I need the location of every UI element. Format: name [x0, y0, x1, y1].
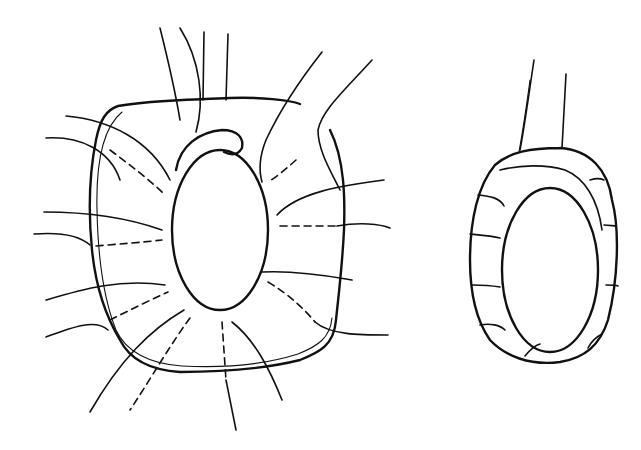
illustration-canvas [0, 0, 641, 450]
sheath-outline [90, 98, 344, 372]
ovoid-cap [176, 130, 242, 170]
left-figure [0, 0, 641, 450]
right-figure [470, 60, 618, 363]
central-ovoid [172, 150, 268, 310]
filaments [34, 28, 390, 430]
right-ovoid [502, 188, 598, 352]
